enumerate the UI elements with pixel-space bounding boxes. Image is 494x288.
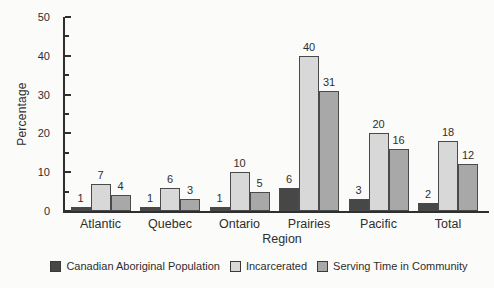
bar-value-label: 4 [106, 180, 136, 193]
y-tick-label: 40 [0, 49, 50, 63]
x-category-label: Ontario [200, 217, 280, 231]
legend-item-canadian-aboriginal-population: Canadian Aboriginal Population [50, 260, 220, 272]
legend-item-incarcerated: Incarcerated [230, 260, 307, 272]
bar-value-label: 10 [225, 157, 255, 170]
bar-value-label: 20 [364, 118, 394, 131]
legend-item-serving-time-in-community: Serving Time in Community [317, 260, 468, 272]
bar-pacific-serving-time-in-community [389, 149, 409, 211]
y-axis-major-tick [65, 132, 71, 134]
bar-quebec-canadian-aboriginal-population [140, 207, 160, 211]
legend-label: Canadian Aboriginal Population [66, 260, 220, 272]
x-axis-title: Region [237, 232, 327, 246]
x-category-label: Quebec [130, 217, 210, 231]
y-axis-minor-tick [65, 35, 69, 37]
bar-value-label: 3 [175, 184, 205, 197]
y-tick-label: 20 [0, 126, 50, 140]
legend-swatch [317, 261, 328, 272]
bar-total-canadian-aboriginal-population [418, 203, 438, 211]
grouped-bar-chart: Percentage 01020304050174Atlantic163Queb… [0, 0, 494, 288]
bar-value-label: 5 [245, 177, 275, 190]
bar-ontario-canadian-aboriginal-population [210, 207, 230, 211]
bar-ontario-serving-time-in-community [250, 192, 270, 211]
x-category-label: Atlantic [61, 217, 141, 231]
x-category-label: Total [408, 217, 488, 231]
bar-value-label: 12 [453, 149, 483, 162]
bar-value-label: 40 [294, 41, 324, 54]
y-axis-line [63, 17, 65, 213]
bar-quebec-serving-time-in-community [180, 199, 200, 211]
x-axis-line [63, 211, 489, 213]
y-axis-minor-tick [65, 74, 69, 76]
y-tick-label: 10 [0, 165, 50, 179]
y-axis-major-tick [65, 16, 71, 18]
y-axis-minor-tick [65, 152, 69, 154]
y-axis-major-tick [65, 55, 71, 57]
legend-swatch [230, 261, 241, 272]
y-tick-label: 30 [0, 88, 50, 102]
x-category-label: Prairies [269, 217, 349, 231]
y-axis-minor-tick [65, 113, 69, 115]
y-tick-label: 50 [0, 10, 50, 24]
bar-atlantic-canadian-aboriginal-population [71, 207, 91, 211]
bar-pacific-canadian-aboriginal-population [349, 199, 369, 211]
y-axis-major-tick [65, 171, 71, 173]
legend-label: Incarcerated [246, 260, 307, 272]
bar-total-serving-time-in-community [458, 164, 478, 211]
bar-atlantic-serving-time-in-community [111, 195, 131, 211]
bar-prairies-canadian-aboriginal-population [279, 188, 299, 211]
legend-swatch [50, 261, 61, 272]
bar-value-label: 16 [384, 134, 414, 147]
y-axis-major-tick [65, 94, 71, 96]
y-tick-label: 0 [0, 204, 50, 218]
legend-label: Serving Time in Community [333, 260, 468, 272]
bar-value-label: 18 [433, 126, 463, 139]
legend: Canadian Aboriginal PopulationIncarcerat… [24, 260, 494, 272]
bar-value-label: 31 [314, 76, 344, 89]
bar-prairies-serving-time-in-community [319, 91, 339, 211]
x-category-label: Pacific [339, 217, 419, 231]
